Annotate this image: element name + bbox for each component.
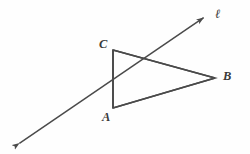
line-l [19, 18, 203, 144]
geometry-figure: C A B ℓ [0, 0, 250, 154]
triangle-abc [113, 50, 215, 108]
figure-canvas [0, 0, 250, 154]
segment-ba [113, 78, 215, 108]
vertex-label-a: A [102, 111, 110, 124]
segment-cb [113, 50, 215, 78]
line-label-l: ℓ [215, 8, 220, 21]
vertex-label-b: B [223, 70, 231, 83]
vertex-label-c: C [99, 38, 107, 51]
